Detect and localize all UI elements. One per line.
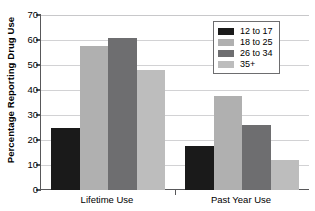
legend-label-26-to-34: 26 to 34: [240, 48, 273, 58]
y-tick-label-0: 0: [0, 185, 38, 195]
bar: [80, 46, 109, 190]
bar: [185, 146, 214, 191]
bar: [271, 160, 300, 190]
bar-chart-figure: Percentage Reporting Drug Use 0102030405…: [0, 0, 315, 211]
bar: [214, 96, 243, 191]
legend: 12 to 17 18 to 25 26 to 34 35+: [213, 21, 280, 74]
y-tick-label-30: 30: [0, 110, 38, 120]
legend-swatch-12-to-17: [218, 28, 234, 35]
y-tick-label-70: 70: [0, 10, 38, 20]
legend-item-18-to-25[interactable]: 18 to 25: [218, 37, 273, 47]
legend-label-35-plus: 35+: [240, 59, 255, 69]
x-axis-label-2: Past Year Use: [181, 194, 301, 205]
x-axis-group-separator: [175, 190, 176, 195]
legend-swatch-18-to-25: [218, 39, 234, 46]
x-axis-label-1: Lifetime Use: [47, 194, 167, 205]
gridline-70: [41, 15, 309, 16]
legend-label-18-to-25: 18 to 25: [240, 37, 273, 47]
legend-swatch-35-plus: [218, 61, 234, 68]
legend-swatch-26-to-34: [218, 50, 234, 57]
bar: [108, 38, 137, 191]
bar: [137, 70, 166, 190]
y-tick-label-60: 60: [0, 35, 38, 45]
legend-item-12-to-17[interactable]: 12 to 17: [218, 26, 273, 36]
y-tick-label-50: 50: [0, 60, 38, 70]
legend-item-26-to-34[interactable]: 26 to 34: [218, 48, 273, 58]
y-tick-label-10: 10: [0, 160, 38, 170]
legend-item-35-plus[interactable]: 35+: [218, 59, 273, 69]
bar: [51, 128, 80, 191]
bar: [242, 125, 271, 190]
y-tick-label-40: 40: [0, 85, 38, 95]
legend-label-12-to-17: 12 to 17: [240, 26, 273, 36]
y-tick-label-20: 20: [0, 135, 38, 145]
